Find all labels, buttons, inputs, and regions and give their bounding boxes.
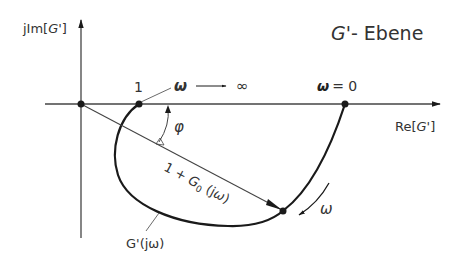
omega-zero-label: ω= 0 — [317, 78, 357, 94]
omega-inf-label: ω — [174, 77, 187, 95]
point-one-label: 1 — [134, 79, 143, 95]
omega-direction-label: ω — [320, 200, 333, 218]
vector-label: 1 + G0 (jω) — [161, 159, 233, 208]
curve-label: G'(jω) — [126, 236, 164, 251]
phi-label: φ — [174, 118, 184, 136]
phi-foot-marker — [156, 138, 164, 145]
phi-arrowhead — [165, 105, 171, 113]
plane-title: G'- Ebene — [331, 22, 423, 44]
y-axis-label: jIm[G'] — [22, 21, 67, 36]
omega-inf-leader — [141, 88, 171, 102]
phi-arc — [159, 108, 168, 142]
infinity-symbol: ∞ — [236, 77, 249, 95]
x-axis-label: Re[G'] — [395, 119, 435, 134]
curve-label-leader — [146, 213, 159, 231]
point-omega-zero — [342, 101, 349, 108]
vector-arrowhead — [266, 199, 282, 210]
nyquist-diagram: jIm[G'] G'- Ebene 1 ω ∞ ω= 0 Re[G'] φ 1 … — [0, 0, 463, 267]
nyquist-curve — [115, 104, 345, 226]
point-on-curve — [280, 208, 287, 215]
origin-point — [78, 101, 85, 108]
